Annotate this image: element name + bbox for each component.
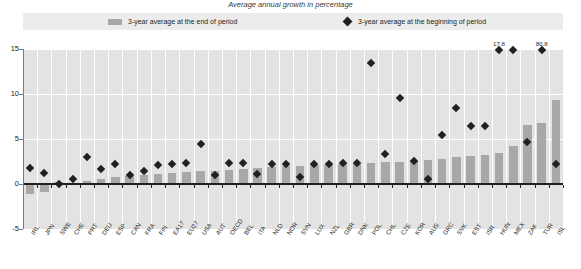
bar-EST (466, 156, 475, 184)
diamond-JPN (40, 169, 48, 177)
bar-swatch-icon (108, 19, 122, 25)
vertical-gridline (336, 49, 337, 229)
x-tick-mark (94, 185, 95, 188)
chart-title: Average annual growth in percentage (0, 0, 581, 9)
bar-JPN (40, 184, 49, 192)
x-tick-mark (194, 185, 195, 188)
vertical-gridline (350, 49, 351, 229)
bar-POL (367, 163, 376, 184)
y-tick-mark (19, 184, 23, 185)
x-tick-mark (336, 185, 337, 188)
legend-label-bar: 3-year average at the end of period (128, 18, 237, 25)
vertical-gridline (378, 49, 379, 229)
y-tick-mark (19, 49, 23, 50)
vertical-gridline (222, 49, 223, 229)
x-tick-mark (151, 185, 152, 188)
x-tick-mark (279, 185, 280, 188)
x-tick-mark (364, 185, 365, 188)
y-tick-mark (19, 94, 23, 95)
bar-USA (196, 171, 205, 184)
vertical-gridline (208, 49, 209, 229)
x-tick-mark (265, 185, 266, 188)
x-tick-mark (464, 185, 465, 188)
x-tick-mark (378, 185, 379, 188)
vertical-gridline (279, 49, 280, 229)
diamond-POL (367, 59, 375, 67)
x-tick-mark (350, 185, 351, 188)
diamond-DEU (97, 164, 105, 172)
y-tick-label: 0 (0, 179, 19, 188)
bar-MEX (509, 146, 518, 184)
vertical-gridline (80, 49, 81, 229)
y-tick-mark (19, 229, 23, 230)
y-tick-label: 15 (0, 44, 19, 53)
vertical-gridline (265, 49, 266, 229)
x-tick-mark (549, 185, 550, 188)
bar-NOR (282, 166, 291, 184)
x-tick-mark (66, 185, 67, 188)
x-tick-mark (250, 185, 251, 188)
bar-GRC (438, 159, 447, 184)
bar-EU27 (182, 172, 191, 184)
diamond-OECD (225, 159, 233, 167)
x-tick-mark (307, 185, 308, 188)
bar-ISR (481, 155, 490, 184)
diamond-EST (466, 121, 474, 129)
y-tick-label: -5 (0, 224, 19, 233)
vertical-gridline (321, 49, 322, 229)
bar-ISL (552, 100, 561, 184)
x-tick-mark (80, 185, 81, 188)
bar-ZAF (523, 125, 532, 184)
vertical-gridline (549, 49, 550, 229)
x-tick-mark (208, 185, 209, 188)
x-tick-mark (122, 185, 123, 188)
x-tick-mark (321, 185, 322, 188)
bar-NLD (267, 167, 276, 184)
vertical-gridline (449, 49, 450, 229)
x-tick-mark (492, 185, 493, 188)
diamond-TUR (537, 46, 545, 54)
diamond-EA17 (168, 160, 176, 168)
value-annotation-HUN: 17.8 (489, 40, 509, 47)
y-tick-label: 10 (0, 89, 19, 98)
bar-TUR (537, 123, 546, 184)
bar-CZE (395, 162, 404, 185)
plot-area (23, 49, 563, 229)
x-tick-mark (137, 185, 138, 188)
x-tick-mark (449, 185, 450, 188)
vertical-gridline (250, 49, 251, 229)
diamond-HUN (495, 46, 503, 54)
vertical-gridline (535, 49, 536, 229)
vertical-gridline (435, 49, 436, 229)
bar-CHL (381, 162, 390, 184)
legend-entry-diamond: 3-year average at the beginning of perio… (343, 13, 486, 30)
diamond-USA (196, 139, 204, 147)
vertical-gridline (51, 49, 52, 229)
vertical-gridline (151, 49, 152, 229)
vertical-gridline (520, 49, 521, 229)
x-tick-mark (222, 185, 223, 188)
bar-BEL (239, 169, 248, 184)
diamond-PRT (83, 153, 91, 161)
vertical-gridline (94, 49, 95, 229)
x-tick-mark (392, 185, 393, 188)
diamond-MEX (509, 46, 517, 54)
vertical-gridline (464, 49, 465, 229)
x-tick-mark (179, 185, 180, 188)
vertical-gridline (364, 49, 365, 229)
x-tick-mark (51, 185, 52, 188)
diamond-SVK (452, 103, 460, 111)
vertical-gridline (137, 49, 138, 229)
bar-SVK (452, 157, 461, 184)
diamond-ESP (111, 160, 119, 168)
x-tick-mark (421, 185, 422, 188)
x-tick-mark (478, 185, 479, 188)
vertical-gridline (122, 49, 123, 229)
y-axis-line (23, 49, 24, 229)
diamond-FIN (154, 161, 162, 169)
diamond-swatch-icon (343, 17, 353, 27)
diamond-ISR (481, 122, 489, 130)
vertical-gridline (66, 49, 67, 229)
diamond-SWE (54, 180, 62, 188)
y-tick-mark (19, 139, 23, 140)
